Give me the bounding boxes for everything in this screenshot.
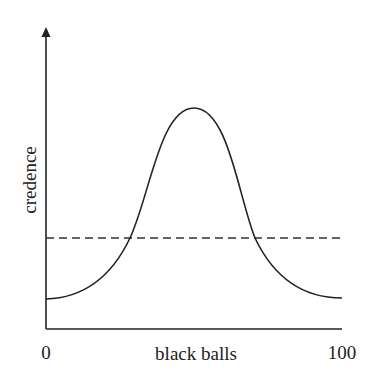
credence-curve [46, 108, 342, 299]
credence-chart: 0 black balls 100 credence [0, 0, 376, 383]
x-min-label: 0 [41, 342, 51, 363]
y-axis-label: credence [19, 146, 40, 214]
x-axis-label: black balls [155, 343, 237, 364]
x-max-label: 100 [328, 342, 357, 363]
y-axis-arrow-icon [42, 27, 51, 37]
